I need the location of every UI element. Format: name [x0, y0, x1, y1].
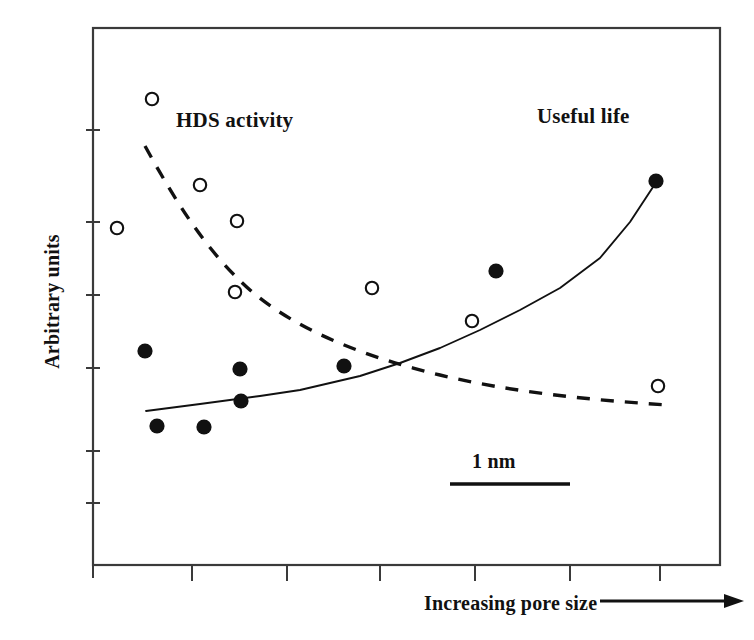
figure-container: HDS activity Useful life 1 nm Increasing…: [0, 0, 754, 640]
arrow-head: [724, 594, 744, 608]
useful-life-trend-line: [146, 184, 655, 411]
hds-activity-points: [111, 93, 664, 392]
data-point-open: [146, 93, 158, 105]
annotation-useful-life: Useful life: [537, 104, 630, 129]
data-point-filled: [232, 361, 247, 376]
data-point-filled: [233, 393, 248, 408]
data-point-filled: [648, 173, 663, 188]
data-point-open: [652, 380, 664, 392]
x-axis-label: Increasing pore size: [424, 592, 597, 615]
data-point-filled: [196, 419, 211, 434]
data-point-open: [231, 215, 243, 227]
scale-bar-label: 1 nm: [472, 450, 516, 473]
hds-activity-trend-line: [145, 146, 668, 405]
data-point-filled: [137, 343, 152, 358]
data-point-open: [194, 179, 206, 191]
data-point-open: [466, 315, 478, 327]
annotation-hds-activity: HDS activity: [176, 108, 293, 133]
data-point-open: [366, 282, 378, 294]
chart-canvas: [0, 0, 754, 640]
data-point-filled: [488, 263, 503, 278]
data-point-filled: [149, 418, 164, 433]
increasing-arrow-icon: [600, 594, 744, 608]
useful-life-points: [137, 173, 663, 434]
y-axis-label: Arbitrary units: [41, 227, 64, 377]
data-point-filled: [336, 358, 351, 373]
data-point-open: [111, 222, 123, 234]
data-point-open: [229, 286, 241, 298]
x-axis-ticks: [93, 558, 660, 581]
